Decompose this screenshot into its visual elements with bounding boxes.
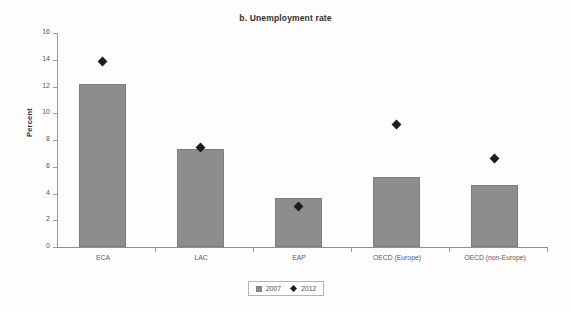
y-tick-2: 2 xyxy=(31,220,57,221)
marker-oecd-non-europe-2012 xyxy=(490,153,500,163)
y-axis-label: Percent xyxy=(25,88,34,158)
bar-eca-2007 xyxy=(79,84,126,247)
y-tick-0: 0 xyxy=(31,247,57,248)
legend-label-2007: 2007 xyxy=(266,285,281,292)
plot-area: 16 14 12 10 8 6 4 2 xyxy=(57,33,548,248)
y-tick-mark xyxy=(53,113,57,114)
x-category-label-lac: LAC xyxy=(171,254,232,261)
y-tick-mark xyxy=(53,60,57,61)
legend-diamond-swatch-icon xyxy=(290,285,297,292)
y-tick-16: 16 xyxy=(31,33,57,34)
x-tick-separator xyxy=(253,248,254,252)
x-category-label-eca: ECA xyxy=(73,254,134,261)
y-tick-label: 12 xyxy=(42,82,50,89)
legend-entry-2012: 2012 xyxy=(290,285,316,292)
chart-figure: b. Unemployment rate Percent 16 14 12 10… xyxy=(0,0,571,312)
chart-title: b. Unemployment rate xyxy=(0,13,571,23)
x-tick-separator xyxy=(547,248,548,252)
x-category-label-oecd-europe: OECD (Europe) xyxy=(357,254,438,261)
y-tick-mark xyxy=(53,140,57,141)
y-tick-mark xyxy=(53,247,57,248)
y-tick-4: 4 xyxy=(31,194,57,195)
x-tick-separator xyxy=(449,248,450,252)
y-tick-mark xyxy=(53,33,57,34)
x-category-label-oecd-non-europe: OECD (non-Europe) xyxy=(455,254,536,261)
y-tick-label: 14 xyxy=(42,55,50,62)
y-tick-label: 8 xyxy=(46,135,50,142)
chart-legend: 2007 2012 xyxy=(248,281,324,296)
y-tick-label: 0 xyxy=(46,242,50,249)
bar-oecd-europe-2007 xyxy=(373,177,420,247)
y-tick-label: 2 xyxy=(46,215,50,222)
marker-eca-2012 xyxy=(98,57,108,67)
y-axis-line xyxy=(57,33,58,248)
bar-lac-2007 xyxy=(177,149,224,247)
y-tick-mark xyxy=(53,194,57,195)
x-tick-separator xyxy=(155,248,156,252)
y-tick-14: 14 xyxy=(31,60,57,61)
legend-entry-2007: 2007 xyxy=(256,285,281,292)
y-tick-8: 8 xyxy=(31,140,57,141)
x-category-label-eap: EAP xyxy=(269,254,330,261)
y-tick-mark xyxy=(53,87,57,88)
y-tick-label: 16 xyxy=(42,28,50,35)
y-tick-label: 10 xyxy=(42,108,50,115)
y-tick-label: 6 xyxy=(46,162,50,169)
y-tick-10: 10 xyxy=(31,113,57,114)
y-tick-6: 6 xyxy=(31,167,57,168)
x-axis-line xyxy=(57,247,548,248)
y-tick-mark xyxy=(53,167,57,168)
marker-oecd-europe-2012 xyxy=(392,120,402,130)
legend-label-2012: 2012 xyxy=(301,285,316,292)
y-tick-12: 12 xyxy=(31,87,57,88)
x-tick-separator xyxy=(351,248,352,252)
bar-oecd-non-europe-2007 xyxy=(471,185,518,247)
legend-square-swatch-icon xyxy=(256,286,262,292)
y-tick-mark xyxy=(53,220,57,221)
y-tick-label: 4 xyxy=(46,189,50,196)
